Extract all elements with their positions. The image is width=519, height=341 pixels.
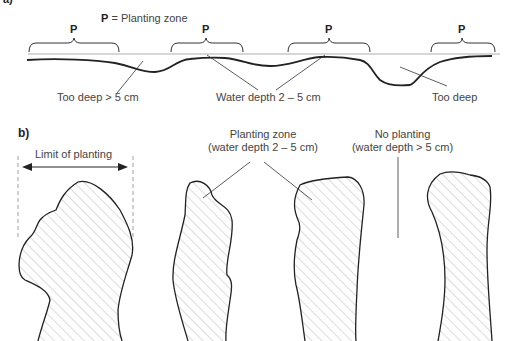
panel-b-label: b) [18, 127, 29, 140]
planting-zone-subtitle: (water depth 2 – 5 cm) [178, 141, 348, 154]
no-planting-title: No planting [345, 128, 460, 141]
panel-a-label: a) [3, 0, 13, 6]
leader-planting-zone-right [264, 162, 312, 200]
limit-of-planting-label: Limit of planting [35, 148, 112, 161]
legend: P = Planting zone [101, 12, 188, 25]
no-planting-label: No planting (water depth > 5 cm) [345, 128, 460, 154]
planting-zone-title: Planting zone [178, 128, 348, 141]
hatched-shape-2 [173, 181, 232, 341]
leader-lines [117, 55, 447, 93]
hatched-shape-1 [19, 181, 133, 341]
leader-planting-zone-left [203, 162, 250, 198]
zone-marker-1: P [70, 23, 77, 36]
diagram-canvas [0, 0, 519, 341]
zone-marker-4: P [458, 23, 465, 36]
annotation-too-deep-5cm: Too deep > 5 cm [57, 91, 139, 104]
planting-zone-brackets [29, 38, 495, 52]
hatched-shape-3 [294, 177, 364, 341]
limit-arrow [22, 163, 128, 171]
zone-marker-3: P [325, 23, 332, 36]
ground-profile [27, 56, 492, 85]
annotation-water-depth: Water depth 2 – 5 cm [216, 91, 321, 104]
no-planting-subtitle: (water depth > 5 cm) [345, 141, 460, 154]
annotation-too-deep: Too deep [432, 91, 477, 104]
hatched-shape-4 [427, 172, 492, 341]
zone-marker-2: P [202, 23, 209, 36]
legend-text: = Planting zone [108, 12, 187, 24]
planting-zone-label: Planting zone (water depth 2 – 5 cm) [178, 128, 348, 154]
